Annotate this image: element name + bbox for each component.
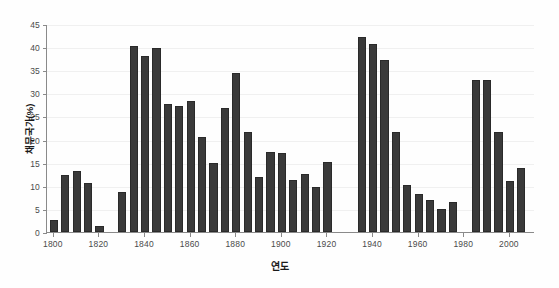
bar — [426, 200, 434, 232]
bar — [255, 177, 263, 232]
bar — [472, 80, 480, 232]
bar — [130, 46, 138, 232]
bar — [73, 171, 81, 232]
y-tick-label: 15 — [30, 159, 40, 169]
bar — [61, 175, 69, 232]
bar — [152, 48, 160, 232]
x-axis-title: 연도 — [0, 258, 559, 273]
bar — [323, 162, 331, 232]
x-axis: 1800182018401860188019001920194019601980… — [46, 233, 534, 255]
x-tick-label: 1940 — [362, 239, 382, 249]
bar — [84, 183, 92, 232]
bar — [141, 56, 149, 232]
bar — [95, 226, 103, 232]
x-tick-label: 1800 — [43, 239, 63, 249]
bar — [232, 73, 240, 232]
x-tick-mark — [53, 233, 54, 237]
x-tick-label: 1840 — [134, 239, 154, 249]
bar — [301, 174, 309, 232]
bar — [369, 44, 377, 232]
bar — [392, 132, 400, 232]
x-tick-mark — [372, 233, 373, 237]
x-tick-mark — [98, 233, 99, 237]
bar — [164, 104, 172, 232]
bar — [266, 152, 274, 232]
bar — [380, 60, 388, 232]
x-tick-mark — [190, 233, 191, 237]
x-tick-label: 1980 — [453, 239, 473, 249]
bar-series — [47, 25, 534, 232]
bar — [118, 192, 126, 232]
bar — [187, 101, 195, 232]
bar — [494, 132, 502, 232]
bar — [358, 37, 366, 232]
bar — [437, 209, 445, 232]
x-tick-label: 1900 — [271, 239, 291, 249]
plot-area: 051015202530354045 — [46, 25, 534, 233]
x-tick-mark — [326, 233, 327, 237]
y-tick-label: 30 — [30, 89, 40, 99]
bar — [50, 220, 58, 232]
x-tick-label: 1820 — [89, 239, 109, 249]
x-tick-label: 2000 — [499, 239, 519, 249]
x-tick-mark — [281, 233, 282, 237]
y-tick-label: 35 — [30, 66, 40, 76]
y-tick-label: 0 — [35, 228, 40, 238]
x-tick-mark — [509, 233, 510, 237]
bar — [415, 194, 423, 232]
x-tick-mark — [463, 233, 464, 237]
y-tick-label: 40 — [30, 43, 40, 53]
bar — [244, 132, 252, 232]
x-tick-label: 1860 — [180, 239, 200, 249]
bar — [449, 202, 457, 232]
bar — [278, 153, 286, 233]
x-tick-mark — [144, 233, 145, 237]
y-tick-label: 5 — [35, 205, 40, 215]
x-tick-mark — [235, 233, 236, 237]
y-tick-label: 10 — [30, 182, 40, 192]
x-tick-mark — [418, 233, 419, 237]
bar — [506, 181, 514, 232]
bar — [175, 106, 183, 232]
bar — [289, 180, 297, 232]
y-axis-title: 채무국가(%) — [22, 104, 36, 155]
chart-figure: 051015202530354045 180018201840186018801… — [0, 0, 559, 288]
bar — [517, 168, 525, 232]
bar — [312, 187, 320, 232]
y-tick-label: 45 — [30, 20, 40, 30]
bar — [403, 185, 411, 232]
x-tick-label: 1960 — [408, 239, 428, 249]
x-tick-label: 1920 — [317, 239, 337, 249]
bar — [221, 108, 229, 232]
bar — [209, 163, 217, 232]
x-tick-label: 1880 — [225, 239, 245, 249]
bar — [483, 80, 491, 232]
bar — [198, 137, 206, 232]
